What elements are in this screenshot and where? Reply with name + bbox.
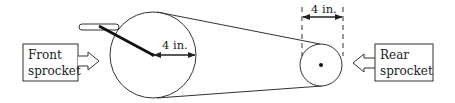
pedal-crank: [79, 24, 153, 55]
rear-label-line1: Rear: [380, 48, 409, 62]
front-radius-label: 4 in.: [162, 38, 188, 52]
chain-bottom: [157, 86, 322, 98]
rear-sprocket: 4 in.: [300, 2, 343, 86]
rear-diameter-label: 4 in.: [311, 2, 337, 16]
rear-hollow-arrow-icon: [353, 54, 375, 72]
front-hollow-arrow-icon: [78, 52, 99, 70]
sprocket-diagram: 4 in. 4 in. Front sprocket Rear sprocket: [0, 0, 455, 103]
rear-label-line2: sprocket: [380, 64, 433, 78]
rear-callout: Rear sprocket: [353, 44, 433, 81]
front-callout: Front sprocket: [23, 44, 99, 81]
rear-sprocket-center-dot: [319, 63, 323, 67]
front-label-line1: Front: [28, 48, 62, 62]
crank-arm: [99, 26, 153, 55]
front-label-line2: sprocket: [28, 64, 81, 78]
